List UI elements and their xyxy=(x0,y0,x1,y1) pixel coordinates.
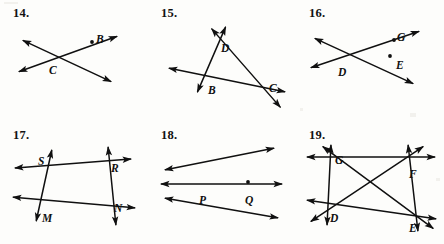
line-G-F-extended xyxy=(306,154,436,160)
line-B-D-extended-stroke xyxy=(198,27,226,91)
problem-14-point-label-B: B xyxy=(96,33,104,45)
diagonal-D-F-extended-arrowhead-start xyxy=(310,214,320,222)
problem-16-point-label-E: E xyxy=(396,59,404,71)
problem-14-canvas xyxy=(0,0,148,122)
line-B-D-extended xyxy=(197,26,226,93)
problem-18: 18.PQ xyxy=(148,122,296,244)
line-through-C-down-right-stroke xyxy=(23,41,110,82)
problem-15-point-label-C: C xyxy=(269,82,277,94)
line-R-N-extended xyxy=(106,146,118,226)
line-horizontal-through-P xyxy=(160,181,283,187)
line-F-E-extended-stroke xyxy=(408,145,418,230)
problem-15: 15.DBC xyxy=(148,0,296,122)
problem-14: 14.BC xyxy=(0,0,148,122)
problem-15-point-label-B: B xyxy=(208,84,216,96)
line-D-C-extended-stroke xyxy=(212,29,280,107)
point-dot-E xyxy=(388,54,392,58)
problem-16-canvas xyxy=(296,0,444,122)
line-falling-through-P xyxy=(164,196,279,219)
problem-18-figure xyxy=(148,122,296,244)
problem-17-point-label-N: N xyxy=(114,202,122,214)
problem-15-point-label-D: D xyxy=(221,42,229,54)
worksheet-page: 14.BC15.DBC16.GDE17.SRNM18.PQ19.GFDE xyxy=(0,0,444,244)
line-rising-through-P-stroke xyxy=(165,148,273,169)
line-D-C-extended xyxy=(211,28,281,108)
problem-19-canvas xyxy=(296,122,444,244)
problem-14-point-label-C: C xyxy=(49,64,57,76)
problem-16-point-label-D: D xyxy=(338,66,346,78)
problem-19-point-label-E: E xyxy=(409,222,417,234)
problem-15-canvas xyxy=(148,0,296,122)
problem-14-figure xyxy=(0,0,148,122)
problem-18-canvas xyxy=(148,122,296,244)
problem-17-point-label-M: M xyxy=(42,212,52,224)
problem-19-point-label-F: F xyxy=(409,168,417,180)
problem-15-figure xyxy=(148,0,296,122)
point-dot-B xyxy=(90,40,94,44)
diagonal-D-F-extended-stroke xyxy=(311,147,423,221)
problem-16-point-label-G: G xyxy=(397,31,405,43)
problem-17-figure xyxy=(0,122,148,244)
problem-17-canvas xyxy=(0,122,148,244)
problem-18-point-label-P: P xyxy=(199,194,206,206)
diagonal-G-E-extended-arrowhead-end xyxy=(424,221,434,229)
problem-17: 17.SRNM xyxy=(0,122,148,244)
diagonal-D-F-extended-arrowhead-end xyxy=(414,146,424,154)
line-rising-through-P xyxy=(164,147,275,172)
line-through-C-down-right xyxy=(22,40,112,82)
line-falling-through-P-stroke xyxy=(165,198,277,217)
problem-17-point-label-S: S xyxy=(38,155,44,167)
problem-19-point-label-G: G xyxy=(335,154,343,166)
point-dot-G xyxy=(392,38,396,42)
problem-16-figure xyxy=(296,0,444,122)
problem-19-point-label-D: D xyxy=(330,212,338,224)
line-B-C-extended-stroke xyxy=(169,68,284,91)
problem-18-point-label-Q: Q xyxy=(245,194,253,206)
problem-19-figure xyxy=(296,122,444,244)
point-dot-Q xyxy=(246,180,250,184)
problem-19: 19.GFDE xyxy=(296,122,444,244)
problem-16: 16.GDE xyxy=(296,0,444,122)
problem-17-point-label-R: R xyxy=(111,162,119,174)
